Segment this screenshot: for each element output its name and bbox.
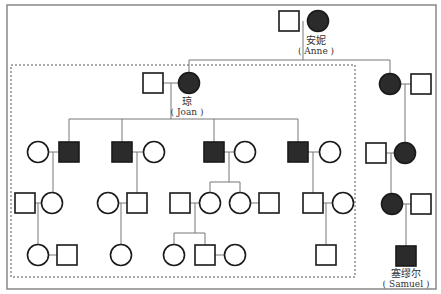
female-circle-icon — [28, 245, 49, 266]
male-square-icon — [411, 74, 431, 94]
affected-female-circle-icon — [308, 11, 329, 32]
pedigree-chart — [0, 0, 441, 294]
joan-name-en: ( Joan ) — [171, 107, 204, 118]
anne-name-zh: 安妮 — [298, 35, 334, 46]
female-circle-icon — [98, 193, 119, 214]
affected-male-square-icon — [204, 142, 224, 162]
affected-female-circle-icon — [382, 194, 403, 215]
female-circle-icon — [144, 142, 165, 163]
female-circle-icon — [333, 193, 354, 214]
male-square-icon — [259, 193, 279, 213]
male-square-icon — [316, 245, 336, 265]
samuel-name-en: ( Samuel ) — [383, 279, 430, 290]
male-square-icon — [57, 245, 77, 265]
female-circle-icon — [42, 193, 63, 214]
female-circle-icon — [235, 142, 256, 163]
female-circle-icon — [111, 245, 132, 266]
samuel-label: 塞缪尔 ( Samuel ) — [383, 268, 430, 290]
female-circle-icon — [320, 142, 341, 163]
male-square-icon — [303, 193, 323, 213]
affected-female-circle-icon — [380, 74, 401, 95]
joan-label: 琼 ( Joan ) — [171, 96, 204, 118]
female-circle-icon — [230, 193, 251, 214]
male-square-icon — [143, 73, 163, 93]
female-circle-icon — [164, 245, 185, 266]
anne-name-en: ( Anne ) — [298, 46, 334, 57]
female-circle-icon — [200, 193, 221, 214]
affected-male-square-icon — [288, 142, 308, 162]
female-circle-icon — [28, 142, 49, 163]
affected-female-circle-icon — [395, 143, 416, 164]
joan-name-zh: 琼 — [171, 96, 204, 107]
affected-male-square-icon — [396, 246, 416, 266]
relationship-lines — [25, 21, 421, 255]
male-square-icon — [366, 143, 386, 163]
affected-male-square-icon — [59, 142, 79, 162]
individuals — [15, 11, 431, 267]
anne-label: 安妮 ( Anne ) — [298, 35, 334, 57]
male-square-icon — [279, 11, 299, 31]
male-square-icon — [127, 193, 147, 213]
male-square-icon — [411, 194, 431, 214]
male-square-icon — [170, 193, 190, 213]
samuel-name-zh: 塞缪尔 — [383, 268, 430, 279]
female-circle-icon — [225, 245, 246, 266]
male-square-icon — [195, 245, 215, 265]
male-square-icon — [15, 193, 35, 213]
affected-female-circle-icon — [179, 73, 200, 94]
affected-male-square-icon — [112, 142, 132, 162]
